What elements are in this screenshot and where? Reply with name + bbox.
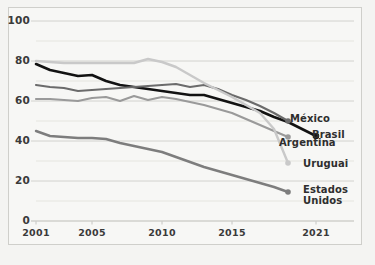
series-label-uruguai: Uruguai (303, 158, 348, 169)
series-endpoint-estados-unidos (285, 189, 291, 195)
series-endpoint-uruguai (285, 160, 291, 166)
series-line-m-xico (36, 84, 288, 121)
ytick-label: 80 (4, 54, 30, 66)
xtick-label: 2005 (72, 227, 112, 238)
ytick-label: 60 (4, 94, 30, 106)
xtick-label: 2001 (16, 227, 56, 238)
xtick-label: 2015 (212, 227, 252, 238)
ytick-label: 40 (4, 134, 30, 146)
series-label-mexico: México (290, 113, 330, 124)
ytick-label: 100 (4, 14, 30, 26)
series-label-estados-unidos-line2: Unidos (303, 195, 342, 206)
xtick-label: 2021 (296, 227, 336, 238)
series-label-estados-unidos-line1: Estados (303, 184, 348, 195)
xtick-label: 2010 (142, 227, 182, 238)
chart-figure: 02040608010020012005201020152021 México … (0, 0, 375, 265)
ytick-label: 20 (4, 174, 30, 186)
series-label-argentina: Argentina (279, 137, 336, 148)
series-line-estados-unidos (36, 131, 288, 192)
ytick-label: 0 (4, 214, 30, 226)
